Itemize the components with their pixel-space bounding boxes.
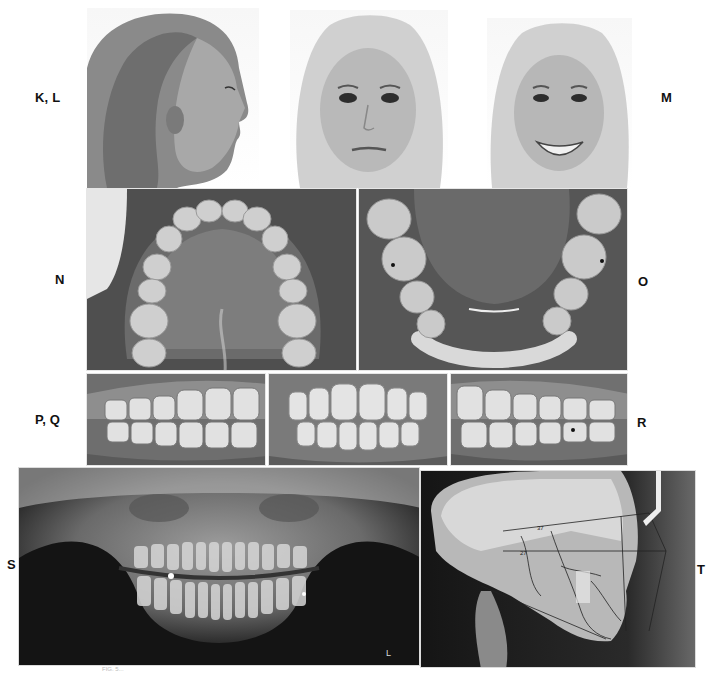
profile-photo	[87, 8, 259, 188]
panel-label-r: R	[637, 415, 647, 430]
ceph-annotation-37: 37	[537, 525, 544, 531]
panel-label-t: T	[697, 562, 705, 577]
right-buccal-photo	[86, 373, 266, 466]
panel-label-n: N	[55, 272, 65, 287]
frontal-photo-smile	[487, 18, 632, 188]
mandibular-occlusal-photo	[358, 188, 628, 371]
frontal-occlusion-photo	[268, 373, 448, 466]
maxillary-occlusal-photo	[86, 188, 357, 371]
panel-label-k-l: K, L	[35, 90, 60, 105]
xray-side-marker: L	[386, 648, 391, 658]
panel-label-m: M	[661, 90, 672, 105]
ceph-annotation-27: 27	[520, 550, 527, 556]
panoramic-radiograph: L	[18, 467, 420, 666]
panel-label-o: O	[638, 274, 648, 289]
figure-caption: FIG. 5...	[102, 666, 124, 672]
frontal-photo-rest	[290, 10, 448, 188]
panel-label-p-q: P, Q	[35, 412, 60, 427]
cephalometric-radiograph: 37 27	[420, 470, 696, 668]
panel-label-s: S	[7, 557, 16, 572]
left-buccal-photo	[450, 373, 628, 466]
